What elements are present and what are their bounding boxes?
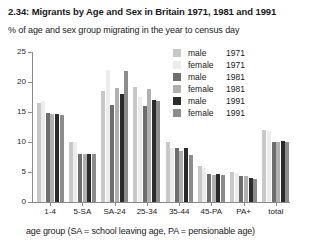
legend-item: male1991 bbox=[173, 95, 293, 107]
legend-item: male1971 bbox=[173, 47, 293, 59]
x-axis-category-label: 1-4 bbox=[34, 208, 66, 216]
legend-item: male1981 bbox=[173, 71, 293, 83]
y-axis-tick bbox=[28, 112, 32, 113]
bar bbox=[69, 142, 73, 202]
bar bbox=[202, 168, 206, 202]
x-axis-category-label: PA+ bbox=[228, 208, 260, 216]
bar bbox=[175, 148, 179, 202]
bar bbox=[179, 151, 183, 202]
bar bbox=[166, 142, 170, 202]
legend-item-year: 1981 bbox=[226, 73, 245, 82]
bar bbox=[124, 71, 128, 202]
bar bbox=[41, 101, 45, 202]
legend-swatch-icon bbox=[173, 49, 181, 57]
legend-item-year: 1991 bbox=[226, 109, 245, 118]
x-axis-category-label: total bbox=[260, 208, 292, 216]
x-axis-tick bbox=[211, 202, 212, 206]
legend-item-year: 1971 bbox=[226, 61, 245, 70]
bar-group bbox=[133, 52, 160, 202]
bar bbox=[249, 178, 253, 202]
bar bbox=[37, 103, 41, 202]
bar bbox=[152, 100, 156, 202]
bar bbox=[285, 142, 289, 202]
figure-footer: age group (SA = school leaving age, PA =… bbox=[26, 226, 323, 236]
bar bbox=[55, 114, 59, 202]
bar bbox=[115, 88, 119, 202]
x-axis-category-label: 35-44 bbox=[163, 208, 195, 216]
bar bbox=[267, 131, 271, 202]
x-axis-category-label: SA-24 bbox=[99, 208, 131, 216]
bar bbox=[235, 173, 239, 202]
chart-legend: male1971female1971male1981female1981male… bbox=[173, 47, 293, 119]
bar bbox=[143, 106, 147, 202]
bar-group bbox=[69, 52, 96, 202]
bar bbox=[78, 154, 82, 202]
legend-swatch-icon bbox=[173, 97, 181, 105]
legend-swatch-icon bbox=[173, 61, 181, 69]
y-axis-tick-label: 25 bbox=[17, 48, 26, 56]
bar bbox=[101, 91, 105, 202]
legend-swatch-icon bbox=[173, 73, 181, 81]
bar bbox=[106, 70, 110, 202]
x-axis-tick bbox=[179, 202, 180, 206]
x-axis-category-label: 25-34 bbox=[131, 208, 163, 216]
x-axis-tick bbox=[50, 202, 51, 206]
legend-item-sex: male bbox=[188, 73, 226, 82]
legend-item-sex: male bbox=[188, 49, 226, 58]
bar bbox=[110, 105, 114, 202]
bar bbox=[138, 97, 142, 202]
bar-group bbox=[101, 52, 128, 202]
figure-container: 2.34: Migrants by Age and Sex in Britain… bbox=[0, 0, 323, 250]
legend-item-year: 1981 bbox=[226, 85, 245, 94]
legend-item-sex: female bbox=[188, 61, 226, 70]
bar bbox=[50, 114, 54, 202]
y-axis-tick bbox=[28, 82, 32, 83]
bar bbox=[92, 154, 96, 202]
figure-title: 2.34: Migrants by Age and Sex in Britain… bbox=[8, 6, 320, 17]
bar bbox=[253, 179, 257, 202]
bar bbox=[73, 142, 77, 202]
bar bbox=[207, 174, 211, 202]
y-axis-tick-label: 10 bbox=[17, 138, 26, 146]
bar bbox=[212, 175, 216, 202]
bar bbox=[198, 166, 202, 202]
legend-item-sex: female bbox=[188, 109, 226, 118]
legend-item-year: 1991 bbox=[226, 97, 245, 106]
legend-item-year: 1971 bbox=[226, 49, 245, 58]
bar bbox=[230, 172, 234, 202]
y-axis-tick bbox=[28, 142, 32, 143]
bar bbox=[120, 94, 124, 202]
bar bbox=[170, 148, 174, 202]
bar bbox=[184, 148, 188, 202]
y-axis-tick bbox=[28, 52, 32, 53]
x-axis-tick bbox=[115, 202, 116, 206]
bar bbox=[87, 154, 91, 202]
bar bbox=[281, 141, 285, 202]
bar bbox=[276, 142, 280, 202]
x-axis-line bbox=[32, 202, 290, 203]
y-axis-tick-label: 5 bbox=[22, 168, 26, 176]
x-axis-tick bbox=[244, 202, 245, 206]
bar bbox=[46, 113, 50, 202]
bar bbox=[147, 89, 151, 202]
x-axis-tick bbox=[276, 202, 277, 206]
bar bbox=[262, 130, 266, 202]
bar bbox=[272, 142, 276, 202]
bar bbox=[133, 87, 137, 202]
bar bbox=[189, 155, 193, 202]
y-axis-tick-label: 0 bbox=[22, 198, 26, 206]
legend-item-sex: male bbox=[188, 97, 226, 106]
legend-swatch-icon bbox=[173, 109, 181, 117]
y-axis-tick bbox=[28, 202, 32, 203]
x-axis-category-label: 5-SA bbox=[66, 208, 98, 216]
legend-item-sex: female bbox=[188, 85, 226, 94]
y-axis-tick bbox=[28, 172, 32, 173]
bar bbox=[156, 101, 160, 202]
x-axis-category-label: 45-PA bbox=[195, 208, 227, 216]
legend-item: female1991 bbox=[173, 107, 293, 119]
bar bbox=[221, 175, 225, 202]
bar bbox=[216, 174, 220, 202]
bar bbox=[239, 176, 243, 202]
y-axis-line bbox=[32, 52, 33, 203]
bar-group bbox=[37, 52, 64, 202]
